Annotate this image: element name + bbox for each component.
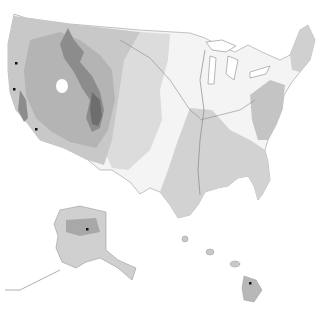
kauai xyxy=(182,236,188,242)
elevation-map xyxy=(0,0,331,311)
marker-washington xyxy=(15,62,18,65)
marker-alaska xyxy=(86,228,89,231)
oahu xyxy=(206,249,214,255)
marker-oregon xyxy=(13,88,16,91)
great-salt-lake xyxy=(56,79,68,93)
marker-hawaii xyxy=(249,282,252,285)
marker-california xyxy=(35,128,38,131)
maui xyxy=(230,261,240,267)
